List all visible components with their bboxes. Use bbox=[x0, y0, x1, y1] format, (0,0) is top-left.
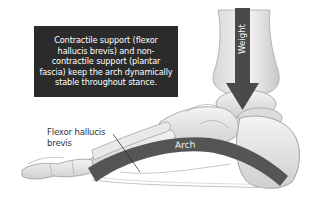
callout-line: stable throughout stance. bbox=[39, 77, 172, 88]
callout-line: hallucis brevis) and non- bbox=[39, 46, 172, 57]
toe-bones bbox=[22, 157, 94, 179]
weight-label: Weight bbox=[237, 19, 247, 59]
arch-label: Arch bbox=[175, 140, 196, 151]
callout-line: Contractile support (flexor bbox=[39, 35, 172, 46]
flexor-label-line: Flexor hallucis bbox=[47, 127, 117, 138]
callout-line: contractile support (plantar bbox=[39, 56, 172, 67]
flexor-hallucis-brevis-label: Flexor hallucis brevis bbox=[47, 127, 117, 148]
callout-box: Contractile support (flexor hallucis bre… bbox=[34, 26, 178, 97]
callout-line: fascia) keep the arch dynamically bbox=[39, 67, 172, 78]
foot-arch-diagram: Contractile support (flexor hallucis bre… bbox=[0, 0, 315, 200]
flexor-label-line: brevis bbox=[47, 138, 117, 149]
callout-text: Contractile support (flexor hallucis bre… bbox=[39, 35, 172, 88]
